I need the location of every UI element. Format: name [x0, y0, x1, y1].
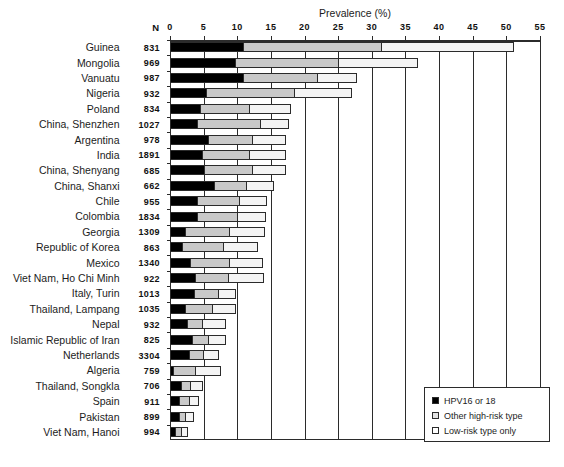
- x-axis-tick-label: 5: [201, 22, 207, 32]
- y-axis-tick-mark: [167, 40, 170, 41]
- bar-segment: [170, 335, 193, 345]
- chart-row-label: Chile955: [0, 194, 164, 209]
- x-axis-tick-label: 45: [467, 22, 478, 32]
- bar-row: [170, 225, 540, 240]
- stacked-bar: [170, 304, 236, 314]
- legend-item: Low-risk type only: [432, 423, 542, 438]
- chart-row-label: Thailand, Songkla706: [0, 379, 164, 394]
- bar-segment: [170, 289, 195, 299]
- bar-segment: [170, 227, 186, 237]
- stacked-bar: [170, 335, 226, 345]
- bar-segment: [170, 350, 190, 360]
- sample-size-value: 685: [128, 166, 165, 176]
- bar-segment: [170, 119, 198, 129]
- chart-row-label: Georgia1309: [0, 225, 164, 240]
- bar-segment: [338, 58, 418, 68]
- y-axis-tick-mark: [167, 163, 170, 164]
- bar-segment: [189, 396, 199, 406]
- sample-size-value: 978: [128, 135, 165, 145]
- country-label: India: [0, 150, 128, 161]
- prevalence-stacked-bar-chart: Prevalence (%) N 0510152025303540455055 …: [0, 0, 564, 467]
- bar-segment: [249, 150, 286, 160]
- country-label: Nepal: [0, 319, 128, 330]
- bar-segment: [197, 119, 261, 129]
- stacked-bar: [170, 119, 289, 129]
- bar-segment: [200, 104, 251, 114]
- bar-segment: [170, 58, 236, 68]
- country-label: Thailand, Lampang: [0, 304, 128, 315]
- bar-row: [170, 240, 540, 255]
- bar-segment: [170, 196, 198, 206]
- stacked-bar: [170, 273, 264, 283]
- stacked-bar: [170, 242, 258, 252]
- sample-size-value: 955: [128, 197, 165, 207]
- sample-size-value: 932: [128, 320, 165, 330]
- stacked-bar: [170, 381, 203, 391]
- category-labels: Guinea831Mongolia969Vanuatu987Nigeria932…: [0, 40, 164, 440]
- bar-segment: [235, 58, 340, 68]
- x-axis-tick-label: 0: [167, 22, 173, 32]
- sample-size-value: 1035: [128, 304, 165, 314]
- bar-row: [170, 148, 540, 163]
- chart-row-label: China, Shanxi662: [0, 179, 164, 194]
- stacked-bar: [170, 88, 352, 98]
- bar-segment: [252, 165, 286, 175]
- y-axis-tick-mark: [167, 394, 170, 395]
- legend-label: Other high-risk type: [444, 411, 523, 421]
- bar-segment: [204, 165, 253, 175]
- country-label: Algeria: [0, 365, 128, 376]
- bar-row: [170, 286, 540, 301]
- y-axis-tick-mark: [167, 409, 170, 410]
- chart-row-label: Algeria759: [0, 363, 164, 378]
- bar-segment: [214, 181, 247, 191]
- y-axis-tick-mark: [167, 379, 170, 380]
- stacked-bar: [170, 150, 286, 160]
- chart-row-label: Islamic Republic of Iran825: [0, 332, 164, 347]
- stacked-bar: [170, 42, 514, 52]
- x-axis-title: Prevalence (%): [170, 7, 540, 19]
- bar-segment: [229, 258, 264, 268]
- chart-row-label: Vanuatu987: [0, 71, 164, 86]
- x-axis-tick-label: 35: [400, 22, 411, 32]
- chart-row-label: Guinea831: [0, 40, 164, 55]
- country-label: Poland: [0, 104, 128, 115]
- stacked-bar: [170, 412, 194, 422]
- bar-row: [170, 163, 540, 178]
- chart-row-label: Colombia1834: [0, 209, 164, 224]
- y-axis-tick-mark: [167, 132, 170, 133]
- chart-row-label: Pakistan899: [0, 409, 164, 424]
- bar-row: [170, 132, 540, 147]
- sample-size-value: 1834: [128, 212, 165, 222]
- sample-size-value: 899: [128, 412, 165, 422]
- bar-segment: [237, 212, 266, 222]
- legend-item: HPV16 or 18: [432, 393, 542, 408]
- sample-size-value: 1891: [128, 150, 165, 160]
- country-label: China, Shenyang: [0, 165, 128, 176]
- bar-row: [170, 117, 540, 132]
- country-label: Chile: [0, 196, 128, 207]
- sample-size-value: 825: [128, 335, 165, 345]
- chart-row-label: Viet Nam, Hanoi994: [0, 425, 164, 440]
- sample-size-value: 969: [128, 58, 165, 68]
- stacked-bar: [170, 258, 263, 268]
- sample-size-value: 932: [128, 89, 165, 99]
- chart-row-label: Poland834: [0, 102, 164, 117]
- country-label: Netherlands: [0, 350, 128, 361]
- y-axis-tick-mark: [167, 317, 170, 318]
- x-axis-tick-mark: [540, 36, 541, 40]
- x-axis-tick-label: 40: [434, 22, 445, 32]
- sample-size-value: 1013: [128, 289, 165, 299]
- y-axis-tick-mark: [167, 148, 170, 149]
- chart-row-label: Nepal932: [0, 317, 164, 332]
- bar-segment: [252, 135, 286, 145]
- country-label: Argentina: [0, 135, 128, 146]
- y-axis-tick-mark: [167, 425, 170, 426]
- x-axis-tick-label: 10: [232, 22, 243, 32]
- sample-size-value: 834: [128, 104, 165, 114]
- stacked-bar: [170, 104, 291, 114]
- bar-segment: [170, 258, 191, 268]
- y-axis-tick-mark: [167, 271, 170, 272]
- country-label: Viet Nam, Ho Chi Minh: [0, 273, 128, 284]
- bar-segment: [190, 381, 202, 391]
- bar-segment: [202, 150, 251, 160]
